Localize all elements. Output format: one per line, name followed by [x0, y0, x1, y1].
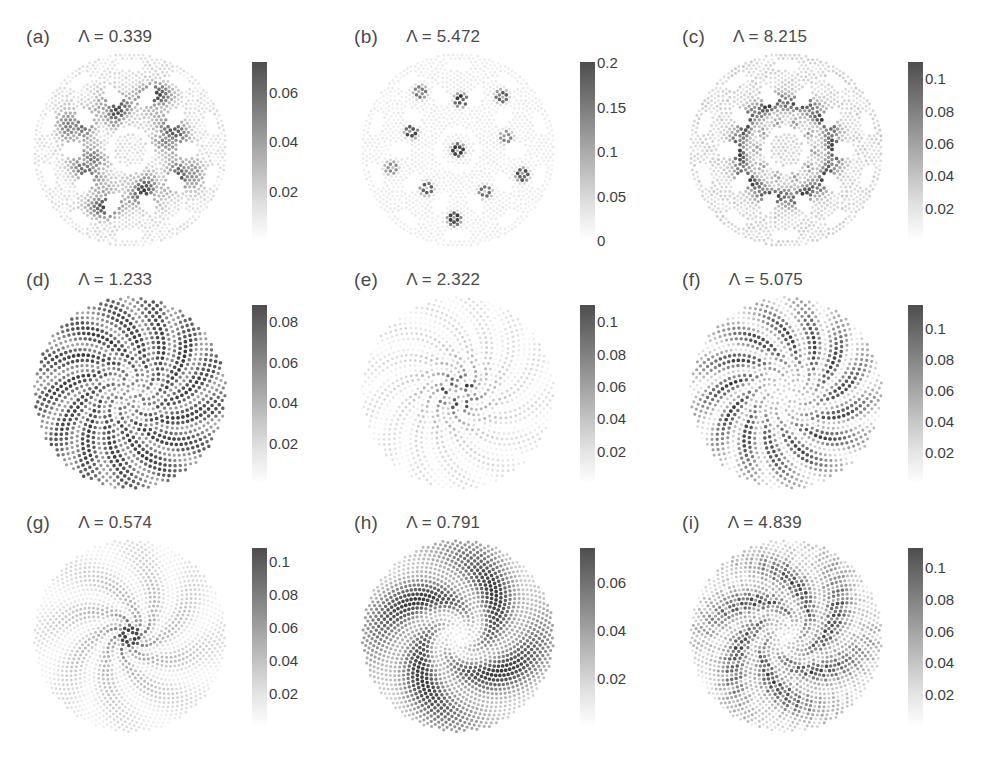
- figure-panel-i: (i) Λ = 4.839 0.020.040.060.080.1: [664, 508, 986, 758]
- point-map-plot: [686, 293, 886, 493]
- panel-header: (i) Λ = 4.839: [664, 508, 986, 538]
- colorbar-tick-labels: 0.020.040.06: [269, 62, 339, 240]
- point-map-plot: [30, 536, 230, 736]
- colorbar-tick: 0.04: [269, 395, 298, 410]
- panel-tag: (b): [354, 26, 378, 48]
- panel-header: (a) Λ = 0.339: [8, 22, 336, 52]
- panel-header: (c) Λ = 8.215: [664, 22, 986, 52]
- colorbar-tick-labels: 0.020.040.060.080.1: [269, 548, 339, 726]
- panel-lambda-label: Λ = 8.215: [733, 27, 807, 47]
- panel-header: (d) Λ = 1.233: [8, 265, 336, 295]
- colorbar-tick-labels: 0.020.040.060.080.1: [925, 548, 986, 726]
- colorbar-tick-labels: 0.020.040.060.080.1: [597, 305, 667, 483]
- colorbar: 00.050.10.150.2: [580, 62, 595, 240]
- panel-lambda-label: Λ = 4.839: [728, 513, 802, 533]
- panel-body: 0.020.040.06: [336, 536, 664, 758]
- colorbar-tick: 0.04: [925, 414, 954, 429]
- colorbar-tick-labels: 00.050.10.150.2: [597, 62, 667, 240]
- point-map-canvas: [358, 536, 558, 736]
- point-map-plot: [358, 50, 558, 250]
- figure-panel-a: (a) Λ = 0.339 0.020.040.06: [8, 22, 336, 272]
- panel-lambda-label: Λ = 2.322: [406, 270, 480, 290]
- panel-tag: (e): [354, 269, 378, 291]
- point-map-plot: [30, 50, 230, 250]
- colorbar-tick: 0.04: [597, 622, 626, 637]
- point-map-canvas: [358, 293, 558, 493]
- colorbar-tick: 0.15: [597, 99, 626, 114]
- colorbar-tick: 0.06: [269, 620, 298, 635]
- colorbar-tick: 0.04: [925, 168, 954, 183]
- colorbar-tick: 0.06: [597, 574, 626, 589]
- colorbar-gradient: [252, 305, 267, 483]
- panel-body: 0.020.040.060.080.1: [664, 293, 986, 515]
- colorbar-tick: 0.06: [925, 623, 954, 638]
- panel-header: (h) Λ = 0.791: [336, 508, 664, 538]
- panel-body: 0.020.040.060.080.1: [664, 536, 986, 758]
- colorbar-tick: 0.1: [925, 560, 946, 575]
- colorbar: 0.020.040.060.080.1: [908, 305, 923, 483]
- panel-body: 0.020.040.060.08: [8, 293, 336, 515]
- point-map-plot: [30, 293, 230, 493]
- panel-lambda-label: Λ = 5.075: [729, 270, 803, 290]
- colorbar: 0.020.040.060.080.1: [908, 548, 923, 726]
- figure-panel-g: (g) Λ = 0.574 0.020.040.060.080.1: [8, 508, 336, 758]
- colorbar-tick: 0.04: [269, 653, 298, 668]
- panel-lambda-label: Λ = 0.339: [78, 27, 152, 47]
- panel-body: 0.020.040.060.080.1: [336, 293, 664, 515]
- colorbar-gradient: [580, 62, 595, 240]
- colorbar: 0.020.040.060.080.1: [908, 62, 923, 240]
- colorbar-tick: 0.06: [597, 378, 626, 393]
- panel-body: 0.020.040.060.080.1: [664, 50, 986, 272]
- colorbar-gradient: [252, 62, 267, 240]
- colorbar-tick: 0.06: [269, 354, 298, 369]
- panel-lambda-label: Λ = 0.574: [78, 513, 152, 533]
- colorbar-tick: 0.08: [925, 352, 954, 367]
- colorbar: 0.020.040.060.080.1: [252, 548, 267, 726]
- panel-body: 0.020.040.06: [8, 50, 336, 272]
- point-map-canvas: [30, 293, 230, 493]
- panel-header: (e) Λ = 2.322: [336, 265, 664, 295]
- colorbar-tick: 0.2: [597, 55, 618, 70]
- colorbar-tick-labels: 0.020.040.06: [597, 548, 667, 726]
- colorbar-tick: 0.06: [269, 84, 298, 99]
- colorbar-tick: 0.1: [597, 144, 618, 159]
- colorbar-gradient: [908, 305, 923, 483]
- colorbar-tick: 0.1: [597, 314, 618, 329]
- panel-tag: (d): [26, 269, 50, 291]
- panel-body: 00.050.10.150.2: [336, 50, 664, 272]
- panel-lambda-label: Λ = 5.472: [406, 27, 480, 47]
- panel-tag: (g): [26, 512, 50, 534]
- panel-tag: (c): [682, 26, 705, 48]
- colorbar-tick-labels: 0.020.040.060.080.1: [925, 62, 986, 240]
- panel-header: (g) Λ = 0.574: [8, 508, 336, 538]
- point-map-canvas: [30, 536, 230, 736]
- figure-panel-h: (h) Λ = 0.791 0.020.040.06: [336, 508, 664, 758]
- colorbar: 0.020.040.06: [252, 62, 267, 240]
- colorbar-tick: 0.08: [925, 591, 954, 606]
- panel-header: (b) Λ = 5.472: [336, 22, 664, 52]
- colorbar-tick: 0.08: [269, 587, 298, 602]
- point-map-canvas: [686, 50, 886, 250]
- colorbar-tick: 0.02: [597, 670, 626, 685]
- colorbar-tick: 0.02: [269, 686, 298, 701]
- colorbar-tick: 0.1: [925, 71, 946, 86]
- panel-lambda-label: Λ = 0.791: [406, 513, 480, 533]
- colorbar-tick: 0.02: [925, 687, 954, 702]
- colorbar-tick: 0.02: [925, 200, 954, 215]
- point-map-plot: [358, 293, 558, 493]
- colorbar-gradient: [580, 548, 595, 726]
- colorbar-tick: 0.1: [925, 321, 946, 336]
- panel-tag: (h): [354, 512, 378, 534]
- point-map-canvas: [686, 536, 886, 736]
- colorbar-tick: 0.04: [925, 655, 954, 670]
- colorbar-tick: 0.02: [925, 445, 954, 460]
- colorbar-gradient: [252, 548, 267, 726]
- panel-body: 0.020.040.060.080.1: [8, 536, 336, 758]
- panel-tag: (i): [682, 512, 700, 534]
- figure-panel-d: (d) Λ = 1.233 0.020.040.060.08: [8, 265, 336, 515]
- colorbar-gradient: [908, 62, 923, 240]
- point-map-canvas: [30, 50, 230, 250]
- colorbar: 0.020.040.060.080.1: [580, 305, 595, 483]
- point-map-plot: [686, 50, 886, 250]
- colorbar-tick: 0.08: [597, 346, 626, 361]
